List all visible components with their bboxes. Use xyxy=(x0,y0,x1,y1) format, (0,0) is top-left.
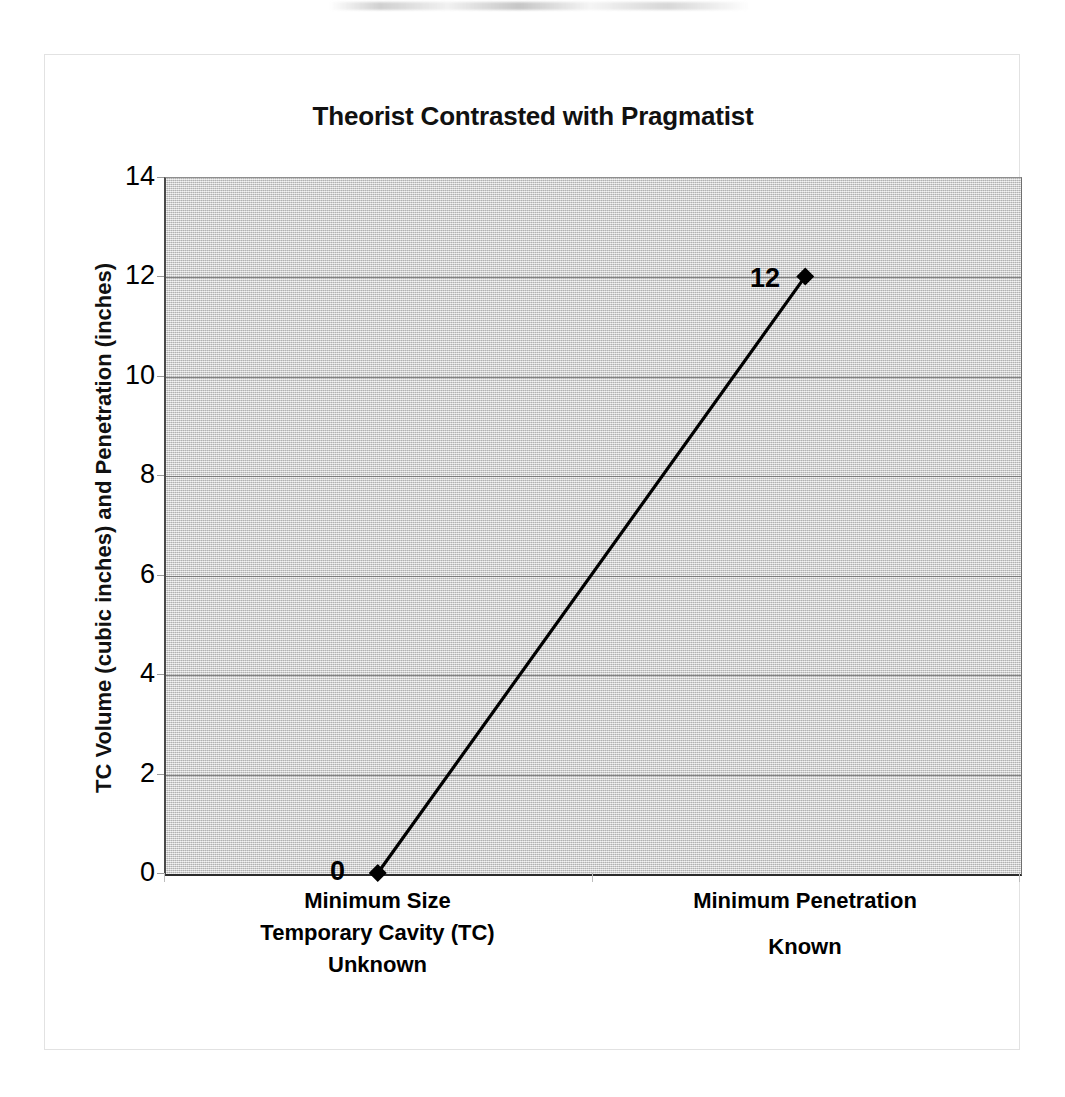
x-tick-mark-1 xyxy=(592,873,593,882)
data-point-label-0: 0 xyxy=(330,858,345,885)
y-tick-mark xyxy=(157,376,164,377)
y-tick-label: 8 xyxy=(85,461,155,488)
x-tick-mark-0 xyxy=(164,873,165,882)
y-axis-tick-labels: 02468101214 xyxy=(77,177,155,873)
gridline xyxy=(166,377,1021,378)
y-tick-label: 4 xyxy=(85,660,155,687)
x-axis-category-0: Minimum SizeTemporary Cavity (TC)Unknown xyxy=(164,885,591,981)
x-axis-category-line: Temporary Cavity (TC) xyxy=(164,917,591,949)
y-tick-label: 2 xyxy=(85,760,155,787)
y-tick-label: 12 xyxy=(85,262,155,289)
x-axis-category-labels: Minimum SizeTemporary Cavity (TC)Unknown… xyxy=(164,885,1019,1035)
y-tick-mark xyxy=(157,674,164,675)
y-tick-mark xyxy=(157,873,164,874)
y-tick-mark xyxy=(157,575,164,576)
y-tick-label: 10 xyxy=(85,362,155,389)
x-axis-category-line: Minimum Penetration xyxy=(591,885,1019,917)
scan-artifact-smudge xyxy=(330,2,750,10)
gridline xyxy=(166,476,1021,477)
chart-frame: Theorist Contrasted with Pragmatist TC V… xyxy=(44,54,1020,1050)
y-tick-mark xyxy=(157,276,164,277)
y-tick-mark xyxy=(157,475,164,476)
x-axis-category-line: Known xyxy=(591,931,1019,963)
x-axis-category-1: Minimum PenetrationKnown xyxy=(591,885,1019,963)
gridline xyxy=(166,576,1021,577)
data-point-label-1: 12 xyxy=(750,265,780,292)
y-tick-label: 6 xyxy=(85,561,155,588)
gridline xyxy=(166,675,1021,676)
y-tick-label: 0 xyxy=(85,859,155,886)
y-tick-label: 14 xyxy=(85,163,155,190)
plot-area xyxy=(164,177,1022,876)
x-axis-category-line: Unknown xyxy=(164,949,591,981)
chart-title: Theorist Contrasted with Pragmatist xyxy=(45,101,1021,132)
x-tick-mark-2 xyxy=(1019,873,1020,882)
x-axis-category-line: Minimum Size xyxy=(164,885,591,917)
y-tick-mark xyxy=(157,774,164,775)
gridline xyxy=(166,277,1021,278)
gridline xyxy=(166,775,1021,776)
y-tick-mark xyxy=(157,177,164,178)
